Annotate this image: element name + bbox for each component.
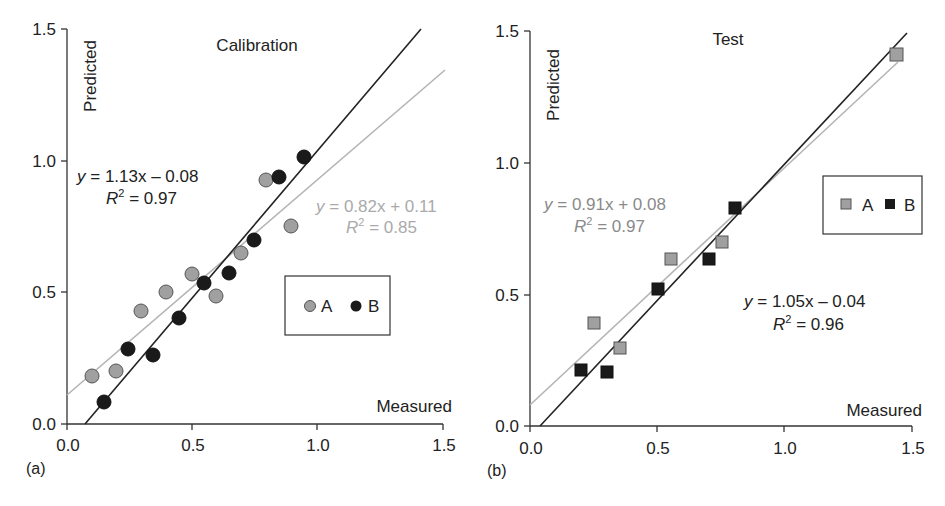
y-tick-labels: 1.5 1.0 0.5 0.0 xyxy=(32,20,56,434)
equation-a: y = 0.82x + 0.11 R2 = 0.85 xyxy=(315,197,437,237)
legend: A B xyxy=(823,176,922,234)
x-tick-label: 0.0 xyxy=(56,436,80,455)
legend-label-a: A xyxy=(321,297,333,316)
y-axis xyxy=(524,31,530,426)
y-axis-label: Predicted xyxy=(544,49,563,121)
legend-marker-b xyxy=(885,199,895,209)
x-tick-label: 1.5 xyxy=(901,439,925,458)
svg-text:R2 = 0.96: R2 = 0.96 xyxy=(773,313,844,334)
svg-text:R2 = 0.97: R2 = 0.97 xyxy=(574,215,645,236)
y-tick-label: 1.0 xyxy=(32,152,56,171)
panel-calibration: 1.5 1.0 0.5 0.0 0.0 0.5 1.0 1.5 (a) Cali… xyxy=(26,20,456,477)
panel-test: 1.5 1.0 0.5 0.0 0.0 0.5 1.0 1.5 (b) Test… xyxy=(487,22,925,479)
legend-label-a: A xyxy=(862,196,874,215)
y-axis xyxy=(61,29,67,424)
y-tick-labels: 1.5 1.0 0.5 0.0 xyxy=(495,22,519,436)
x-tick-labels: 0.0 0.5 1.0 1.5 xyxy=(56,436,456,455)
panel-label: (a) xyxy=(26,460,46,477)
y-tick-label: 1.0 xyxy=(495,154,519,173)
x-tick-label: 0.5 xyxy=(181,436,205,455)
y-tick-label: 0.5 xyxy=(32,283,56,302)
x-tick-label: 0.0 xyxy=(519,439,543,458)
y-tick-label: 1.5 xyxy=(32,20,56,39)
svg-text:y = 1.13x – 0.08: y = 1.13x – 0.08 xyxy=(76,167,198,186)
x-tick-labels: 0.0 0.5 1.0 1.5 xyxy=(519,439,925,458)
y-axis-label: Predicted xyxy=(81,40,100,112)
panel-label: (b) xyxy=(487,462,507,479)
svg-text:y = 0.91x + 0.08: y = 0.91x + 0.08 xyxy=(543,195,666,214)
x-tick-label: 0.5 xyxy=(646,439,670,458)
x-tick-label: 1.5 xyxy=(432,436,456,455)
y-tick-label: 1.5 xyxy=(495,22,519,41)
legend-marker-a xyxy=(305,301,316,312)
legend-label-b: B xyxy=(904,196,915,215)
equation-b: y = 1.13x – 0.08 R2 = 0.97 xyxy=(76,167,198,208)
x-axis xyxy=(67,424,443,430)
x-axis-label: Measured xyxy=(846,401,922,420)
chart-title: Calibration xyxy=(216,36,297,55)
y-tick-label: 0.0 xyxy=(32,415,56,434)
x-axis xyxy=(530,426,912,432)
svg-text:R2 = 0.85: R2 = 0.85 xyxy=(346,216,417,237)
figure: 1.5 1.0 0.5 0.0 0.0 0.5 1.0 1.5 (a) Cali… xyxy=(0,0,945,506)
chart-title: Test xyxy=(712,30,743,49)
legend-marker-a xyxy=(841,199,851,209)
legend-marker-b xyxy=(351,301,362,312)
x-tick-label: 1.0 xyxy=(773,439,797,458)
y-tick-label: 0.0 xyxy=(495,417,519,436)
svg-text:y = 0.82x + 0.11: y = 0.82x + 0.11 xyxy=(315,197,437,216)
svg-text:R2 = 0.97: R2 = 0.97 xyxy=(106,187,177,208)
legend-label-b: B xyxy=(368,297,379,316)
equation-b: y = 1.05x – 0.04 R2 = 0.96 xyxy=(743,292,865,334)
svg-text:y = 1.05x – 0.04: y = 1.05x – 0.04 xyxy=(743,292,865,311)
legend: A B xyxy=(285,276,390,335)
x-tick-label: 1.0 xyxy=(306,436,330,455)
y-tick-label: 0.5 xyxy=(495,286,519,305)
x-axis-label: Measured xyxy=(376,397,452,416)
equation-a: y = 0.91x + 0.08 R2 = 0.97 xyxy=(543,195,666,236)
